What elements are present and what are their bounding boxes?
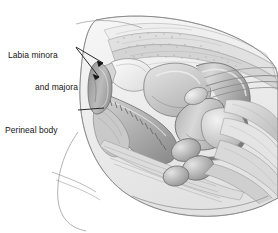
labia-label-line1: Labia minora xyxy=(8,50,78,61)
anatomy-figure: Labia minora and majora Perineal body xyxy=(0,0,278,233)
labia-label: Labia minora and majora xyxy=(8,29,78,113)
perineal-label-line1: Perineal body xyxy=(5,125,77,136)
labia-label-line2: and majora xyxy=(8,82,78,93)
perineal-body-label: Perineal body xyxy=(5,104,77,157)
